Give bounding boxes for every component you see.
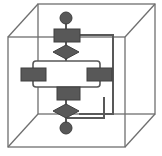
cube-back-face — [38, 4, 155, 114]
cube-edge-top-left — [8, 4, 38, 37]
node-end-circle[interactable] — [60, 122, 72, 134]
cube-edge-bottom-right — [125, 114, 155, 147]
node-decision-bottom-diamond[interactable] — [53, 104, 79, 118]
cube-edge-bottom-left — [8, 114, 38, 147]
cube-back-face-rect — [38, 4, 155, 114]
node-process-left-rect[interactable] — [21, 68, 46, 81]
node-start-circle[interactable] — [60, 12, 72, 24]
diagram-canvas: Flowchart enclosed in wireframe cube — [0, 0, 162, 156]
node-process-top-rect[interactable] — [54, 29, 80, 42]
node-process-bottom-rect[interactable] — [57, 87, 80, 100]
flowchart-cube-illustration — [0, 0, 162, 156]
node-process-right-rect[interactable] — [87, 68, 112, 81]
cube-edge-top-right — [125, 4, 155, 37]
node-decision-top-diamond[interactable] — [53, 45, 79, 59]
